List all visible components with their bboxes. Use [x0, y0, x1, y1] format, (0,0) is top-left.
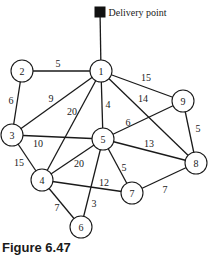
node-label: 1: [99, 66, 104, 77]
delivery-point-label: Delivery point: [109, 7, 167, 18]
node-label: 9: [181, 96, 186, 107]
node-label: 6: [79, 222, 84, 233]
edge-weight-1-9: 15: [141, 72, 151, 83]
node-3: 3: [1, 124, 23, 146]
edge-weight-3-5: 10: [33, 138, 43, 149]
edge-weight-5-7: 5: [122, 162, 127, 173]
node-6: 6: [70, 216, 92, 238]
edge-5-9: [103, 101, 183, 139]
edge-weight-4-7: 12: [99, 177, 109, 188]
node-1: 1: [90, 60, 112, 82]
edge-weight-3-4: 15: [14, 157, 24, 168]
edge-weight-1-4: 20: [67, 106, 77, 117]
node-4: 4: [31, 169, 53, 191]
edge-weight-2-3: 6: [9, 95, 14, 106]
edge-weight-4-6: 7: [55, 202, 60, 213]
delivery-point-square-icon: [95, 7, 106, 18]
node-label: 5: [101, 134, 106, 145]
edge-weight-1-5: 4: [106, 99, 111, 110]
node-label: 7: [130, 188, 135, 199]
node-label: 8: [194, 158, 199, 169]
edge-4-7: [42, 180, 132, 193]
node-2: 2: [11, 60, 33, 82]
node-label: 4: [40, 175, 45, 186]
node-9: 9: [172, 90, 194, 112]
edge-weight-7-8: 7: [163, 184, 168, 195]
edge-weight-5-4: 20: [74, 158, 84, 169]
edge-weight-5-8: 13: [144, 138, 154, 149]
node-7: 7: [121, 182, 143, 204]
node-label: 2: [20, 66, 25, 77]
nodes-layer: 123456789: [1, 60, 207, 238]
edge-weight-5-9: 6: [126, 117, 131, 128]
edge-weight-1-3: 9: [49, 93, 54, 104]
edge-weight-1-8: 14: [138, 93, 148, 104]
edge-weight-1-2: 5: [56, 58, 61, 69]
figure-caption: Figure 6.47: [2, 240, 71, 255]
node-label: 3: [10, 130, 15, 141]
edge-weight-9-8: 5: [196, 123, 201, 134]
edge-1-4: [42, 71, 101, 180]
edge-weight-5-6: 3: [92, 198, 97, 209]
node-5: 5: [92, 128, 114, 150]
edge-3-5: [12, 135, 103, 139]
node-8: 8: [185, 152, 207, 174]
